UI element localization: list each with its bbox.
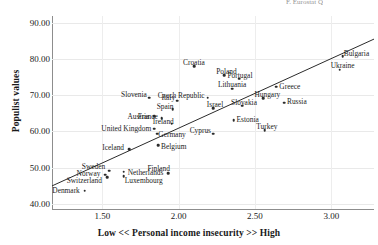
data-point-label: Luxembourg — [125, 177, 163, 185]
scatter-plot-figure: F. Eurostat Q Populist values Low << Per… — [0, 0, 378, 245]
data-point-label: Portugal — [227, 72, 252, 80]
data-point-label: Turkey — [256, 123, 277, 131]
x-axis-line — [52, 209, 374, 210]
data-point-label: Greece — [279, 83, 300, 91]
x-tick-label: 3.00 — [311, 211, 351, 221]
data-point-label: Lithuania — [218, 81, 246, 89]
x-axis-tick-labels: 1.502.002.503.00 — [0, 211, 378, 227]
data-point-label: United Kingdom — [101, 125, 151, 133]
data-point — [148, 96, 151, 99]
data-point-label: Russia — [287, 98, 307, 106]
data-point-label: Slovenia — [121, 91, 147, 99]
y-tick-label: 40.00 — [4, 199, 50, 209]
data-point — [275, 85, 278, 88]
data-point-label: Switzerland — [67, 177, 102, 185]
x-tick-label: 1.50 — [82, 211, 122, 221]
data-point-label: Denmark — [52, 187, 80, 195]
data-point-label: Hungary — [254, 91, 280, 99]
data-point-label: Sweden — [82, 163, 105, 171]
data-point-label: Germany — [158, 131, 186, 139]
data-point — [106, 176, 109, 179]
y-tick-label: 90.00 — [4, 18, 50, 28]
data-point — [206, 96, 209, 99]
data-point — [153, 127, 156, 130]
x-tick-label: 2.00 — [159, 211, 199, 221]
data-point — [232, 119, 235, 122]
data-point — [157, 144, 160, 147]
data-point-label: Iceland — [102, 144, 124, 152]
plot-area: DenmarkNorwaySwedenSwitzerlandNetherland… — [52, 16, 374, 209]
data-point-label: Slovakia — [231, 99, 257, 107]
data-point-label: Croatia — [183, 59, 205, 67]
x-axis-title: Low << Personal income insecurity >> Hig… — [0, 228, 378, 238]
y-axis-tick-labels: 40.0050.0060.0070.0080.0090.00 — [0, 0, 50, 245]
data-point-label: Bulgaria — [344, 50, 369, 58]
data-point — [212, 132, 215, 135]
y-tick-label: 70.00 — [4, 90, 50, 100]
data-point-label: Ukraine — [331, 62, 355, 70]
x-tick-label: 2.50 — [235, 211, 275, 221]
y-tick-label: 80.00 — [4, 54, 50, 64]
data-point-label: Cyprus — [190, 127, 211, 135]
data-point-label: Czech Republic — [158, 92, 205, 100]
data-point — [176, 99, 179, 102]
data-point — [128, 148, 131, 151]
data-point — [122, 171, 125, 174]
data-point — [84, 189, 87, 192]
top-cropped-header: F. Eurostat Q — [286, 0, 372, 5]
data-point — [108, 169, 111, 172]
data-point-label: Finland — [147, 165, 170, 173]
y-tick-label: 60.00 — [4, 126, 50, 136]
data-point-label: Ireland — [153, 118, 174, 126]
data-point-label: Spain — [157, 103, 174, 111]
data-point — [283, 101, 286, 104]
data-point-label: Israel — [207, 101, 223, 109]
data-point-label: Belgium — [161, 143, 186, 151]
y-tick-label: 50.00 — [4, 163, 50, 173]
